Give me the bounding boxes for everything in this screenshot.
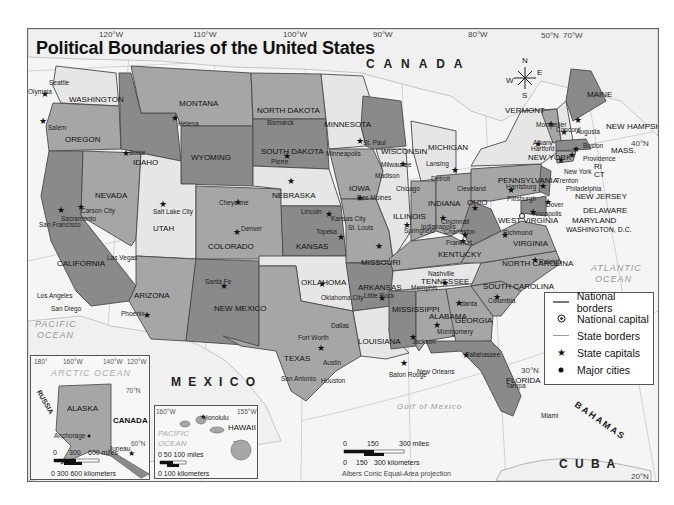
svg-text:Cleveland: Cleveland [457,185,486,192]
svg-text:50°N: 50°N [541,31,559,40]
svg-text:St. Louis: St. Louis [348,224,374,231]
svg-text:Lincoln: Lincoln [301,208,322,215]
svg-text:Salt Lake City: Salt Lake City [153,208,194,216]
hawaii-map: 160°W 155°W 20°N Honolulu ★ HAWAII PACIF… [155,406,257,478]
svg-text:150: 150 [367,440,379,447]
svg-text:Raleigh: Raleigh [539,258,561,266]
svg-text:Des Moines: Des Moines [357,194,392,201]
svg-text:Frankfort: Frankfort [446,239,472,246]
svg-text:600 miles: 600 miles [88,449,118,456]
svg-text:155°W: 155°W [237,408,257,415]
legend-item-national-borders: National borders [545,293,653,310]
svg-text:San Antonio: San Antonio [281,375,316,382]
svg-text:GEORGIA: GEORGIA [455,316,493,325]
svg-text:Los Angeles: Los Angeles [37,292,73,300]
svg-text:150: 150 [356,459,368,466]
svg-text:70°W: 70°W [563,31,583,40]
label-atlantic: ATLANTIC [590,263,642,273]
svg-text:300 miles: 300 miles [399,440,429,447]
svg-text:UTAH: UTAH [153,224,174,233]
svg-text:Cheyenne: Cheyenne [219,199,249,207]
svg-text:COLORADO: COLORADO [208,242,254,251]
svg-text:★: ★ [128,449,135,458]
svg-text:Little Rock: Little Rock [364,292,395,299]
svg-text:30°N: 30°N [521,366,539,375]
svg-text:Lansing: Lansing [426,160,449,168]
svg-text:S: S [522,91,527,100]
label-mexico: M E X I C O [171,375,257,389]
svg-text:0: 0 [343,459,347,466]
svg-text:Olympia: Olympia [28,88,52,96]
svg-text:0 300 600 kilometers: 0 300 600 kilometers [51,470,116,477]
svg-text:60°N: 60°N [131,440,146,447]
svg-text:0: 0 [53,449,57,456]
svg-text:160°W: 160°W [63,358,83,365]
svg-text:OCEAN: OCEAN [37,330,74,340]
svg-text:0 100 kilometers: 0 100 kilometers [158,470,210,477]
svg-text:ARKANSAS: ARKANSAS [358,283,402,292]
svg-text:CALIFORNIA: CALIFORNIA [57,259,106,268]
svg-text:Minneapolis: Minneapolis [326,150,361,158]
svg-text:Dover: Dover [546,201,564,208]
svg-text:Jackson: Jackson [412,338,436,345]
svg-text:PACIFIC: PACIFIC [158,429,189,438]
svg-text:ALASKA: ALASKA [67,404,99,413]
state-new-mexico [186,259,259,346]
svg-text:MASS.: MASS. [611,146,636,155]
svg-text:San Francisco: San Francisco [39,221,81,228]
svg-text:Las Vegas: Las Vegas [107,254,138,262]
label-cuba: C U B A [559,457,617,471]
svg-text:Anchorage: Anchorage [54,432,86,440]
svg-text:0 50 100 miles: 0 50 100 miles [158,451,204,458]
svg-text:Trenton: Trenton [556,177,579,184]
svg-text:Salem: Salem [48,124,66,131]
state-border-line-icon [551,335,571,336]
svg-text:KANSAS: KANSAS [296,242,328,251]
label-dc: WASHINGTON, D.C. [566,226,632,233]
svg-text:OCEAN: OCEAN [595,274,632,284]
svg-text:New York: New York [564,168,592,175]
svg-text:Tallahassee: Tallahassee [466,351,501,358]
svg-text:NORTH DAKOTA: NORTH DAKOTA [257,106,320,115]
svg-text:★: ★ [337,232,345,242]
svg-text:St. Paul: St. Paul [363,139,386,146]
svg-text:VERMONT: VERMONT [505,106,545,115]
svg-text:★: ★ [57,205,65,215]
svg-text:W: W [506,76,514,85]
svg-text:★: ★ [574,115,582,125]
svg-text:Carson City: Carson City [81,207,116,215]
svg-text:N: N [522,56,528,65]
svg-text:NEW MEXICO: NEW MEXICO [214,304,266,313]
projection-label: Albers Conic Equal-Area projection [342,470,451,478]
svg-text:OREGON: OREGON [65,135,101,144]
svg-text:Madison: Madison [375,172,400,179]
svg-text:MARYLAND: MARYLAND [572,216,617,225]
svg-text:80°W: 80°W [468,30,488,39]
svg-text:LOUISIANA: LOUISIANA [358,337,401,346]
svg-text:San Diego: San Diego [51,305,82,313]
svg-text:Atlanta: Atlanta [457,300,478,307]
svg-text:DELAWARE: DELAWARE [583,206,627,215]
svg-text:160°W: 160°W [156,408,176,415]
svg-text:★: ★ [557,155,565,165]
national-capital-icon [551,314,571,323]
svg-text:Boise: Boise [129,149,146,156]
svg-text:ARIZONA: ARIZONA [134,291,170,300]
svg-text:★: ★ [471,203,479,213]
svg-text:70°N: 70°N [126,387,141,394]
svg-text:MAINE: MAINE [587,90,612,99]
svg-text:180°: 180° [34,358,48,365]
svg-text:★: ★ [539,181,547,191]
svg-text:CT: CT [594,170,605,179]
svg-text:Pierre: Pierre [271,158,289,165]
star-icon: ★ [551,347,571,358]
svg-text:Phoenix: Phoenix [121,310,145,317]
svg-text:IDAHO: IDAHO [133,158,158,167]
svg-text:Oklahoma City: Oklahoma City [321,294,364,302]
svg-text:E: E [537,68,542,77]
svg-text:WEST VIRGINIA: WEST VIRGINIA [498,216,559,225]
svg-text:Annapolis: Annapolis [533,210,562,218]
svg-text:Honolulu: Honolulu [203,414,229,421]
svg-text:★: ★ [441,278,449,288]
svg-text:Topeka: Topeka [316,228,337,236]
